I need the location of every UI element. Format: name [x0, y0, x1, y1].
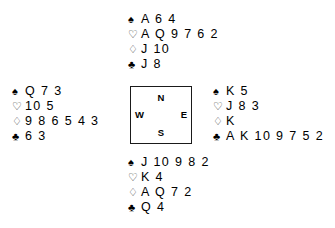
spade-icon: ♠: [213, 84, 226, 99]
hand-north: ♠ A 6 4 ♡ A Q 9 7 6 2 ♢ J 10 ♣ J 8: [128, 12, 219, 72]
west-clubs-row: ♣ 6 3: [12, 129, 99, 144]
east-hearts-cards: J 8 3: [226, 99, 260, 114]
south-clubs-row: ♣ Q 4: [128, 200, 210, 215]
east-clubs-row: ♣ A K 10 9 7 5 2: [213, 129, 324, 144]
club-icon: ♣: [128, 57, 141, 72]
diamond-icon: ♢: [213, 114, 226, 129]
south-diamonds-cards: A Q 7 2: [141, 185, 193, 200]
north-diamonds-row: ♢ J 10: [128, 42, 219, 57]
east-diamonds-row: ♢ K: [213, 114, 324, 129]
club-icon: ♣: [128, 200, 141, 215]
west-diamonds-row: ♢ 9 8 6 5 4 3: [12, 114, 99, 129]
west-diamonds-cards: 9 8 6 5 4 3: [25, 114, 99, 129]
west-hearts-cards: 10 5: [25, 99, 55, 114]
north-diamonds-cards: J 10: [141, 42, 170, 57]
east-spades-row: ♠ K 5: [213, 84, 324, 99]
compass-east-label: E: [181, 110, 187, 120]
west-clubs-cards: 6 3: [25, 129, 47, 144]
compass-south-label: S: [131, 128, 191, 138]
north-hearts-cards: A Q 9 7 6 2: [141, 27, 219, 42]
east-clubs-cards: A K 10 9 7 5 2: [226, 129, 324, 144]
diamond-icon: ♢: [128, 42, 141, 57]
north-spades-row: ♠ A 6 4: [128, 12, 219, 27]
south-hearts-cards: K 4: [141, 170, 164, 185]
spade-icon: ♠: [128, 12, 141, 27]
hand-east: ♠ K 5 ♡ J 8 3 ♢ K ♣ A K 10 9 7 5 2: [213, 84, 324, 144]
compass-north-label: N: [131, 93, 191, 103]
diamond-icon: ♢: [128, 185, 141, 200]
south-diamonds-row: ♢ A Q 7 2: [128, 185, 210, 200]
club-icon: ♣: [12, 129, 25, 144]
hand-south: ♠ J 10 9 8 2 ♡ K 4 ♢ A Q 7 2 ♣ Q 4: [128, 155, 210, 215]
hand-west: ♠ Q 7 3 ♡ 10 5 ♢ 9 8 6 5 4 3 ♣ 6 3: [12, 84, 99, 144]
north-clubs-row: ♣ J 8: [128, 57, 219, 72]
spade-icon: ♠: [12, 84, 25, 99]
west-spades-cards: Q 7 3: [25, 84, 63, 99]
club-icon: ♣: [213, 129, 226, 144]
heart-icon: ♡: [213, 99, 226, 114]
west-spades-row: ♠ Q 7 3: [12, 84, 99, 99]
south-clubs-cards: Q 4: [141, 200, 165, 215]
north-clubs-cards: J 8: [141, 57, 162, 72]
heart-icon: ♡: [128, 170, 141, 185]
east-hearts-row: ♡ J 8 3: [213, 99, 324, 114]
north-spades-cards: A 6 4: [141, 12, 177, 27]
south-spades-row: ♠ J 10 9 8 2: [128, 155, 210, 170]
spade-icon: ♠: [128, 155, 141, 170]
north-hearts-row: ♡ A Q 9 7 6 2: [128, 27, 219, 42]
south-spades-cards: J 10 9 8 2: [141, 155, 210, 170]
compass-box: N W E S: [130, 86, 192, 144]
east-spades-cards: K 5: [226, 84, 249, 99]
bridge-deal-diagram: ♠ A 6 4 ♡ A Q 9 7 6 2 ♢ J 10 ♣ J 8 ♠ Q 7…: [0, 0, 335, 228]
heart-icon: ♡: [12, 99, 25, 114]
south-hearts-row: ♡ K 4: [128, 170, 210, 185]
diamond-icon: ♢: [12, 114, 25, 129]
east-diamonds-cards: K: [226, 114, 236, 129]
compass-west-label: W: [135, 110, 144, 120]
heart-icon: ♡: [128, 27, 141, 42]
west-hearts-row: ♡ 10 5: [12, 99, 99, 114]
